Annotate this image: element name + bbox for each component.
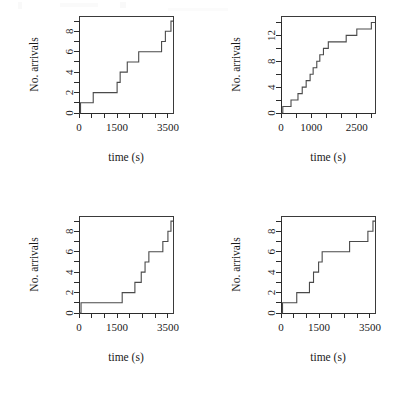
figure-grid: 01500350002468time (s)No. arrivals 01000… [0,0,404,403]
x-tick-label: 0 [76,121,82,133]
x-tick-labels: 015003500 [76,321,179,333]
x-tick-label: 3500 [359,321,382,333]
y-tick-label: 0 [265,110,277,116]
x-tick-label: 1500 [308,321,331,333]
chart-panel-top-left: 01500350002468time (s)No. arrivals [0,0,202,200]
y-tick-label: 4 [63,269,75,275]
y-tick-label: 8 [63,228,75,234]
y-tick-label: 0 [265,310,277,316]
y-tick-labels: 02468 [63,28,75,116]
y-axis-ticks [74,21,79,113]
y-tick-label: 0 [63,310,75,316]
y-tick-labels: 02468 [63,228,75,316]
x-tick-label: 0 [278,121,284,133]
x-axis-title: time (s) [310,151,346,164]
x-axis-ticks [79,113,168,118]
y-tick-label: 12 [265,30,277,41]
x-axis-ticks [281,313,370,318]
y-tick-label: 8 [63,28,75,34]
step-line [79,221,173,313]
y-tick-label: 2 [265,290,277,296]
x-axis-title: time (s) [108,151,144,164]
y-tick-label: 6 [265,248,277,254]
x-tick-label: 2500 [346,121,369,133]
y-axis-title: No. arrivals [230,37,242,92]
step-line [79,21,173,113]
x-tick-label: 1500 [106,321,129,333]
step-line [281,22,375,113]
plot-svg: 01500350002468time (s)No. arrivals [202,200,404,400]
x-tick-label: 0 [76,321,82,333]
y-tick-label: 0 [63,110,75,116]
x-axis-title: time (s) [108,351,144,364]
chart-panel-bottom-left: 01500350002468time (s)No. arrivals [0,200,202,400]
y-axis-ticks [276,22,281,113]
x-tick-label: 3500 [157,121,180,133]
y-axis-title: No. arrivals [28,237,40,292]
y-axis-ticks [276,221,281,313]
chart-panel-top-right: 01000250004812time (s)No. arrivals [202,0,404,200]
x-tick-label: 3500 [157,321,180,333]
x-tick-labels: 015003500 [278,321,381,333]
y-tick-labels: 04812 [265,30,277,116]
chart-panel-bottom-right: 01500350002468time (s)No. arrivals [202,200,404,400]
y-tick-label: 2 [63,290,75,296]
y-tick-label: 4 [265,84,277,90]
y-axis-title: No. arrivals [28,37,40,92]
x-tick-label: 1500 [106,121,129,133]
y-tick-label: 4 [265,269,277,275]
plot-box [79,216,173,313]
x-tick-labels: 010002500 [278,121,368,133]
x-axis-title: time (s) [310,351,346,364]
plot-svg: 01000250004812time (s)No. arrivals [202,0,404,200]
x-axis-ticks [79,313,168,318]
y-axis-ticks [74,221,79,313]
plot-svg: 01500350002468time (s)No. arrivals [0,0,202,200]
plot-box [281,216,375,313]
step-line [281,221,375,313]
y-axis-title: No. arrivals [230,237,242,292]
x-tick-label: 1000 [300,121,323,133]
y-tick-label: 6 [63,48,75,54]
y-tick-label: 2 [63,90,75,96]
x-tick-label: 0 [278,321,284,333]
x-axis-ticks [281,113,372,118]
y-tick-label: 6 [63,248,75,254]
plot-svg: 01500350002468time (s)No. arrivals [0,200,202,400]
y-tick-label: 8 [265,228,277,234]
y-tick-label: 8 [265,58,277,64]
y-tick-label: 4 [63,69,75,75]
plot-box [281,16,375,113]
y-tick-labels: 02468 [265,228,277,316]
x-tick-labels: 015003500 [76,121,179,133]
